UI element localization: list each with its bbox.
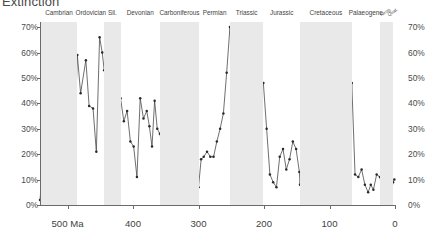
x-tick-mark-100 — [330, 206, 331, 209]
x-tick-mark-300 — [199, 206, 200, 209]
x-tick-mark-200 — [264, 206, 265, 209]
period-label-cretaceous: Cretaceous — [310, 9, 343, 16]
period-label-carboniferous: Carboniferous — [159, 9, 199, 16]
x-axis-labels: 500 Ma4003002001000 — [0, 0, 433, 242]
period-label-ordovician: Ordovician — [75, 9, 106, 16]
period-label-palaeogene: Palaeogene — [349, 9, 383, 16]
period-label-cambrian: Cambrian — [45, 9, 73, 16]
period-label-triassic: Triassic — [236, 9, 258, 16]
x-tick-label-0: 0 — [392, 218, 397, 229]
x-tick-label-100: 100 — [321, 218, 337, 229]
period-label-permian: Permian — [203, 9, 227, 16]
period-label-jurassic: Jurassic — [270, 9, 293, 16]
x-tick-label-200: 200 — [256, 218, 272, 229]
x-tick-label-400: 400 — [125, 218, 141, 229]
x-tick-label-500: 500 Ma — [52, 218, 84, 229]
x-tick-mark-0 — [395, 206, 396, 209]
extinction-chart: Extinction 0%10%20%30%40%50%60%70% 0%10%… — [0, 0, 433, 242]
period-label-sil: Sil. — [108, 9, 117, 16]
x-tick-label-300: 300 — [190, 218, 206, 229]
x-tick-mark-400 — [133, 206, 134, 209]
x-tick-mark-500 — [68, 206, 69, 209]
period-label-devonian: Devonian — [127, 9, 154, 16]
